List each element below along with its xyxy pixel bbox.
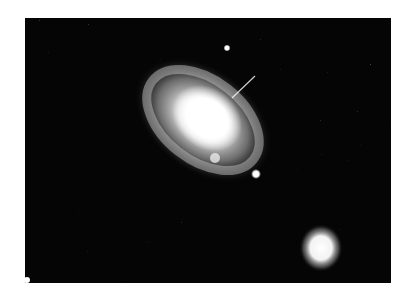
star xyxy=(224,45,231,52)
galaxy-scene xyxy=(25,18,391,283)
galaxy-knot xyxy=(210,153,220,163)
galaxy-photograph xyxy=(25,18,391,283)
companion-galaxy xyxy=(299,224,343,272)
star xyxy=(251,169,261,179)
